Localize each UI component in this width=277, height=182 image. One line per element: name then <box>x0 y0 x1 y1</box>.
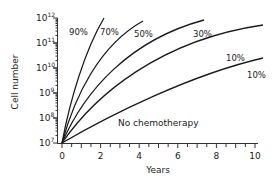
svg-text:90%: 90% <box>69 27 88 37</box>
svg-text:50%: 50% <box>134 29 153 39</box>
svg-text:4: 4 <box>136 151 142 161</box>
x-tick-labels: 0 2 4 6 8 10 <box>59 151 261 161</box>
curve-labels: 90% 70% 50% 30% 10% 10% No chemotherapy <box>69 27 266 128</box>
y-tick-label: 109 <box>39 86 54 98</box>
svg-text:2: 2 <box>98 151 104 161</box>
svg-text:10%: 10% <box>226 53 245 63</box>
y-tick-label: 1011 <box>36 36 55 48</box>
svg-text:70%: 70% <box>100 27 119 37</box>
svg-text:10: 10 <box>249 151 261 161</box>
y-axis-label: Cell number <box>10 54 20 109</box>
svg-text:No chemotherapy: No chemotherapy <box>118 118 199 128</box>
y-tick-label: 107 <box>39 136 54 148</box>
y-tick-labels: 1012 1011 1010 109 108 107 <box>36 11 55 148</box>
y-tick-label: 108 <box>39 111 54 123</box>
x-axis-label: Years <box>145 165 170 175</box>
y-tick-label: 1012 <box>36 11 55 23</box>
x-axis <box>57 144 258 149</box>
svg-text:6: 6 <box>175 151 181 161</box>
cell-growth-chart: 1012 1011 1010 109 108 107 0 2 4 6 8 10 … <box>0 0 277 182</box>
svg-text:30%: 30% <box>193 29 212 39</box>
svg-text:8: 8 <box>214 151 220 161</box>
svg-text:0: 0 <box>59 151 65 161</box>
svg-text:10%: 10% <box>247 70 266 80</box>
y-tick-label: 1010 <box>36 61 55 73</box>
